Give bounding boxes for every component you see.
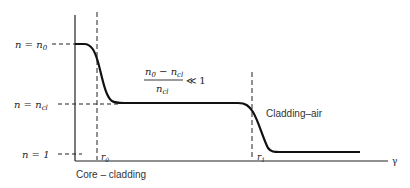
core-cladding-caption: Core – cladding <box>76 169 146 180</box>
fraction-denominator: ncl <box>156 83 169 96</box>
x-axis-label: γ <box>392 156 397 166</box>
ncl-label: n = ncl <box>14 99 48 112</box>
r0-label: r0 <box>101 152 109 163</box>
index-difference-annotation: n0 − ncl ncl ≪ 1 <box>144 66 206 96</box>
r1-label: r1 <box>257 152 265 163</box>
index-profile-curve <box>75 44 360 152</box>
much-less-than-one: ≪ 1 <box>186 75 206 86</box>
cladding-air-caption: Cladding–air <box>266 108 323 119</box>
n-one-label: n = 1 <box>22 149 50 160</box>
n0-label: n = n0 <box>15 39 48 52</box>
fraction-numerator: n0 − ncl <box>145 66 183 79</box>
refractive-index-diagram: n = n0 n = ncl n = 1 r0 r1 γ n0 − ncl nc… <box>0 0 410 188</box>
